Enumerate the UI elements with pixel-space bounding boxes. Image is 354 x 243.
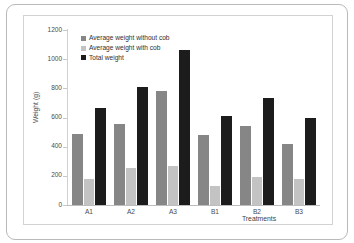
y-axis-tick-mark — [63, 176, 67, 177]
y-axis-tick-mark — [63, 118, 67, 119]
bar — [240, 126, 251, 205]
y-axis-tick-labels: 020040060080010001200 — [24, 16, 62, 226]
bar — [305, 118, 316, 205]
bar-group — [282, 30, 316, 205]
bar — [263, 98, 274, 205]
document-frame: Weight (g) 020040060080010001200 A1A2A3B… — [6, 4, 348, 240]
y-axis-tick-mark — [63, 147, 67, 148]
bar — [282, 144, 293, 205]
x-axis-line — [67, 205, 320, 206]
y-axis-tick-label: 1200 — [28, 27, 62, 34]
legend-swatch-total — [81, 55, 86, 60]
bar — [252, 177, 263, 205]
legend-item: Average weight without cob — [81, 35, 170, 42]
bar — [84, 179, 95, 205]
chart-legend: Average weight without cobAverage weight… — [81, 35, 170, 64]
y-axis-tick-label: 1000 — [28, 56, 62, 63]
bar-group — [240, 30, 274, 205]
y-axis-tick-mark — [63, 205, 67, 206]
bar — [126, 168, 137, 205]
legend-item: Average weight with cob — [81, 45, 170, 52]
y-axis-tick-label: 800 — [28, 85, 62, 92]
legend-swatch-with-cob — [81, 46, 86, 51]
bar — [198, 135, 209, 205]
bar — [72, 134, 83, 205]
x-axis-tick-label: A1 — [68, 209, 110, 216]
y-axis-tick-label: 400 — [28, 143, 62, 150]
bar — [221, 116, 232, 205]
bar — [210, 186, 221, 205]
bar — [137, 87, 148, 205]
legend-swatch-without-cob — [81, 36, 86, 41]
bar — [168, 166, 179, 205]
y-axis-tick-mark — [63, 30, 67, 31]
y-axis-tick-mark — [63, 59, 67, 60]
bar — [156, 91, 167, 205]
bar — [114, 124, 125, 205]
bar-group — [198, 30, 232, 205]
legend-item-label: Total weight — [89, 55, 124, 62]
x-axis-title: Treatments — [204, 216, 314, 223]
x-axis-tick-label: B1 — [194, 209, 236, 216]
bar-chart-figure: Weight (g) 020040060080010001200 A1A2A3B… — [23, 15, 333, 225]
x-axis-tick-label: A2 — [110, 209, 152, 216]
legend-item-label: Average weight without cob — [89, 35, 170, 42]
x-axis-tick-label: A3 — [152, 209, 194, 216]
y-axis-tick-label: 200 — [28, 172, 62, 179]
bar — [95, 108, 106, 205]
legend-item-label: Average weight with cob — [89, 45, 160, 52]
y-axis-tick-mark — [63, 88, 67, 89]
y-axis-tick-label: 0 — [28, 202, 62, 209]
legend-item: Total weight — [81, 55, 170, 62]
bar — [294, 179, 305, 205]
x-axis-tick-label: B3 — [278, 209, 320, 216]
bar — [179, 50, 190, 205]
y-axis-tick-label: 600 — [28, 114, 62, 121]
